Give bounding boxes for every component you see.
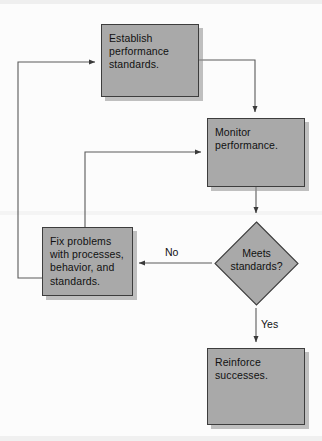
edge-label-no: No xyxy=(165,246,178,258)
node-establish-performance-standards[interactable]: Establish performance standards. xyxy=(101,24,199,97)
edge-fix-to-monitor-loop xyxy=(85,152,201,227)
flowchart-canvas: Establish performance standards. Monitor… xyxy=(0,0,322,441)
edge-establish-to-monitor xyxy=(199,60,255,112)
node-monitor-label: Monitor performance. xyxy=(215,126,300,152)
node-meets-standards-decision[interactable]: Meets standards? xyxy=(212,219,301,308)
node-reinforce-successes[interactable]: Reinforce successes. xyxy=(207,348,305,425)
node-establish-label: Establish performance standards. xyxy=(109,32,194,72)
edge-label-yes: Yes xyxy=(261,318,278,330)
node-monitor-performance[interactable]: Monitor performance. xyxy=(207,118,305,187)
node-fix-problems[interactable]: Fix problems with processes, behavior, a… xyxy=(42,227,133,296)
diamond-shape xyxy=(212,219,301,308)
node-reinforce-label: Reinforce successes. xyxy=(215,356,300,382)
node-fix-problems-label: Fix problems with processes, behavior, a… xyxy=(50,235,128,288)
